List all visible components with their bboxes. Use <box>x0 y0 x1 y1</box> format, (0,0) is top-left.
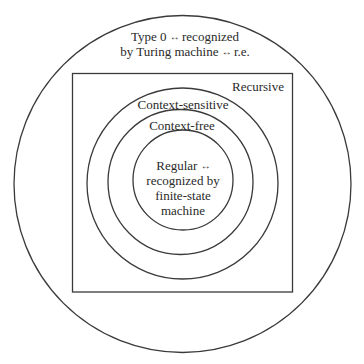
regular-line4: machine <box>138 203 228 218</box>
recognized-text: recognized <box>182 29 239 44</box>
turing-machine-text: by Turing machine <box>120 44 218 59</box>
type0-label: Type 0 ↔ recognized by Turing machine ↔ … <box>100 29 270 59</box>
regular-text: Regular <box>156 158 197 173</box>
regular-line2: recognized by <box>138 173 228 188</box>
regular-line3: finite-state <box>138 188 228 203</box>
equivalence-arrow-icon: ↔ <box>170 31 179 42</box>
type0-line2: by Turing machine ↔ r.e. <box>100 44 270 59</box>
equivalence-arrow-icon: ↔ <box>222 46 231 57</box>
type0-line1: Type 0 ↔ recognized <box>100 29 270 44</box>
context-sensitive-label: Context-sensitive <box>126 97 240 112</box>
regular-line1: Regular ↔ <box>138 158 228 173</box>
context-free-label: Context-free <box>140 118 224 133</box>
equivalence-arrow-icon: ↔ <box>201 160 210 171</box>
type0-text: Type 0 <box>131 29 167 44</box>
recursive-label: Recursive <box>232 79 284 94</box>
regular-label: Regular ↔ recognized by finite-state mac… <box>138 158 228 218</box>
re-text: r.e. <box>234 44 250 59</box>
